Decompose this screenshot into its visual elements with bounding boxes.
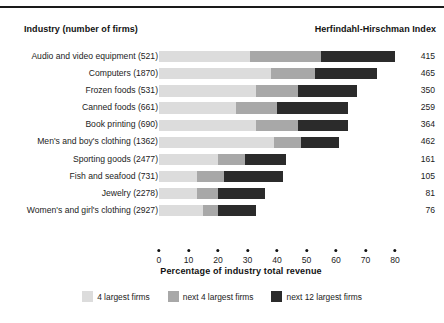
axis-tick-dot [246,249,249,252]
row-label: Jewelry (2278) [102,188,158,198]
hhi-value: 161 [405,154,435,164]
bar-segment-2 [203,205,218,216]
bar-segment-1 [159,171,197,182]
chart-row: Fish and seafood (731)105 [0,168,444,185]
stacked-bar [159,171,283,182]
legend-item: next 4 largest firms [168,291,254,302]
bar-segment-2 [197,188,218,199]
bar-segment-2 [218,154,245,165]
stacked-bar [159,85,357,96]
row-label: Book printing (690) [85,119,158,129]
x-axis-title-text: Percentage of industry total revenue [160,266,321,276]
header-rule [0,6,444,8]
axis-tick-dot [157,249,160,252]
stacked-bar [159,120,348,131]
row-label: Women's and girl's clothing (2927) [27,205,158,215]
axis-tick-label: 60 [331,255,341,265]
stacked-bar [159,154,286,165]
legend-swatch [82,291,93,302]
row-label: Computers (1870) [89,68,158,78]
column-header-hhi: Herfindahl-Hirschman Index [315,24,436,34]
stacked-bar [159,102,348,113]
bottom-left-blank [0,307,14,323]
row-label: Canned foods (661) [82,102,158,112]
bar-segment-3 [321,51,395,62]
bar-segment-2 [236,102,277,113]
legend-swatch [168,291,179,302]
stacked-bar [159,205,256,216]
legend-item: 4 largest firms [82,291,150,302]
chart-row: Frozen foods (531)350 [0,82,444,99]
chart-row: Audio and video equipment (521)415 [0,48,444,65]
hhi-value: 462 [405,136,435,146]
bar-segment-3 [277,102,348,113]
chart-row: Computers (1870)465 [0,65,444,82]
chart-row: Men's and boy's clothing (1362)462 [0,133,444,150]
bar-segment-1 [159,85,256,96]
axis-tick-dot [216,249,219,252]
bar-segment-2 [197,171,224,182]
hhi-value: 465 [405,68,435,78]
hhi-value: 76 [405,205,435,215]
legend-item: next 12 largest firms [271,291,361,302]
stacked-bar [159,188,265,199]
bar-segment-3 [245,154,286,165]
bar-segment-1 [159,154,218,165]
chart-row: Women's and girl's clothing (2927)76 [0,202,444,219]
hhi-value: 81 [405,188,435,198]
bar-segment-1 [159,205,203,216]
chart-row: Sporting goods (2477)161 [0,151,444,168]
chart-row: Jewelry (2278)81 [0,185,444,202]
bar-segment-2 [250,51,321,62]
axis-tick-dot [305,249,308,252]
axis-tick-label: 20 [213,255,223,265]
axis-tick-label: 10 [184,255,194,265]
bar-segment-1 [159,188,197,199]
bar-segment-2 [256,85,297,96]
bar-segment-1 [159,102,236,113]
x-axis-title: Percentage of industry total revenue [0,266,444,276]
legend-label: 4 largest firms [97,292,150,302]
hhi-value: 415 [405,51,435,61]
hhi-value: 350 [405,85,435,95]
bar-segment-3 [298,85,357,96]
stacked-bar [159,51,395,62]
bar-segment-2 [256,120,297,131]
axis-tick-label: 50 [302,255,312,265]
axis-tick-dot [187,249,190,252]
row-label: Frozen foods (531) [85,85,158,95]
legend-label: next 12 largest firms [286,292,361,302]
axis-tick-dot [364,249,367,252]
axis-tick-label: 70 [361,255,371,265]
axis-tick-label: 80 [390,255,400,265]
axis-tick-label: 0 [157,255,162,265]
axis-tick-label: 40 [272,255,282,265]
legend-swatch [271,291,282,302]
chart-row: Book printing (690)364 [0,116,444,133]
hhi-value: 364 [405,119,435,129]
bar-segment-2 [271,68,315,79]
bar-segment-3 [298,120,348,131]
legend-label: next 4 largest firms [183,292,254,302]
chart-legend: 4 largest firmsnext 4 largest firmsnext … [0,291,444,302]
row-label: Sporting goods (2477) [73,154,158,164]
bar-segment-3 [301,137,339,148]
chart-rows: Audio and video equipment (521)415Comput… [0,48,444,219]
column-header-industry: Industry (number of firms) [24,24,138,34]
bar-segment-1 [159,137,274,148]
bar-segment-2 [274,137,301,148]
bar-segment-1 [159,68,271,79]
axis-tick-dot [334,249,337,252]
stacked-bar [159,137,339,148]
axis-tick-dot [393,249,396,252]
row-label: Fish and seafood (731) [70,171,158,181]
hhi-value: 259 [405,102,435,112]
axis-tick-dot [275,249,278,252]
bar-segment-3 [218,205,256,216]
bar-segment-3 [218,188,265,199]
bar-segment-1 [159,120,256,131]
axis-tick-label: 30 [243,255,253,265]
stacked-bar [159,68,377,79]
chart-figure: Industry (number of firms) Herfindahl-Hi… [0,0,444,323]
chart-row: Canned foods (661)259 [0,99,444,116]
